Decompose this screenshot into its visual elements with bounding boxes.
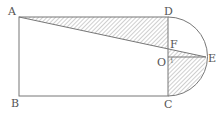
geometry-diagram: 1 A B C D F O E — [0, 0, 223, 119]
label-o: O — [157, 56, 166, 69]
label-f: F — [170, 38, 178, 51]
label-b: B — [11, 97, 19, 110]
label-e: E — [208, 52, 216, 65]
label-d: D — [164, 5, 173, 18]
angle-mark-label: 1 — [170, 57, 174, 64]
label-a: A — [7, 5, 17, 18]
label-c: C — [164, 98, 172, 111]
